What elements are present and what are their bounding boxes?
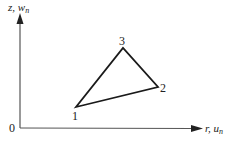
node-label-1: 1 [72,109,78,123]
horizontal-axis [20,128,193,129]
vertical-axis-arrow-icon [17,13,24,24]
node-label-2: 2 [160,81,166,95]
diagram-canvas: z, wn r, un 0 1 2 3 [0,0,235,145]
origin-label: 0 [9,121,15,135]
horizontal-axis-label: r, un [205,122,223,136]
node-label-3: 3 [119,34,125,48]
triangle-element [76,48,158,107]
horizontal-axis-arrow-icon [191,125,203,132]
vertical-axis-label: z, wn [7,1,29,15]
